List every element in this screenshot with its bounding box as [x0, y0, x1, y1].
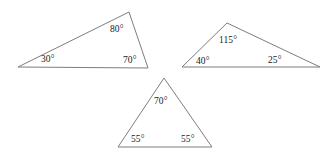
angle-label-70-degrees-left-triangle: 70°: [123, 56, 137, 66]
triangles-figure: [0, 0, 325, 156]
angle-label-70-degrees-bottom-triangle: 70°: [154, 97, 168, 107]
angle-label-55-degrees-right: 55°: [181, 135, 195, 145]
angle-label-30-degrees: 30°: [41, 55, 55, 65]
angle-label-115-degrees: 115°: [219, 36, 237, 46]
angle-label-80-degrees: 80°: [110, 25, 124, 35]
angle-label-25-degrees: 25°: [268, 56, 282, 66]
angle-label-40-degrees: 40°: [196, 57, 210, 67]
angle-label-55-degrees-left: 55°: [131, 135, 145, 145]
diagram-canvas: 30° 80° 70° 115° 40° 25° 70° 55° 55°: [0, 0, 325, 156]
